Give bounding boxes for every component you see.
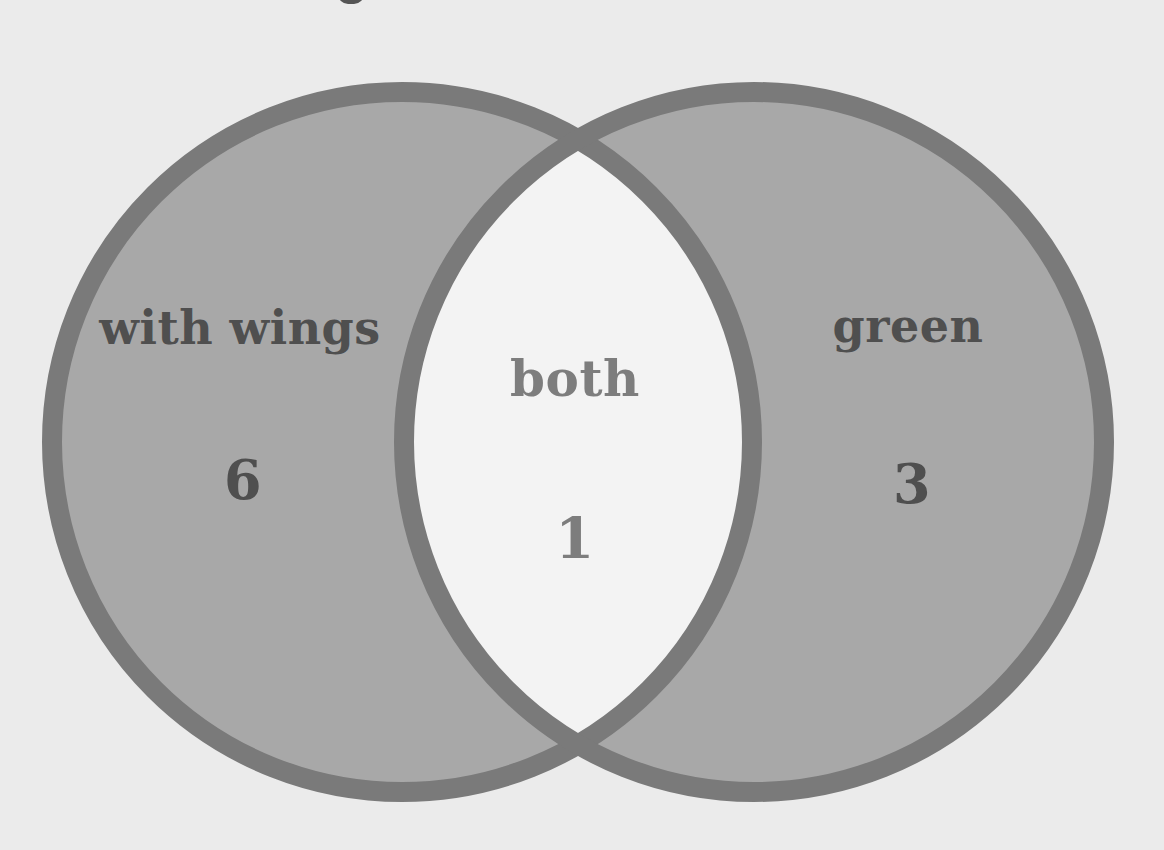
intersection-label: both (510, 349, 640, 408)
set-count-with-wings: 6 (224, 448, 262, 512)
venn-diagram: with wings 6 both 1 green 3 (0, 0, 1164, 850)
set-count-green: 3 (893, 452, 931, 516)
venn-circles (0, 0, 1164, 850)
set-label-with-wings: with wings (99, 301, 380, 355)
intersection-count: 1 (555, 505, 594, 571)
set-label-green: green (833, 299, 984, 353)
